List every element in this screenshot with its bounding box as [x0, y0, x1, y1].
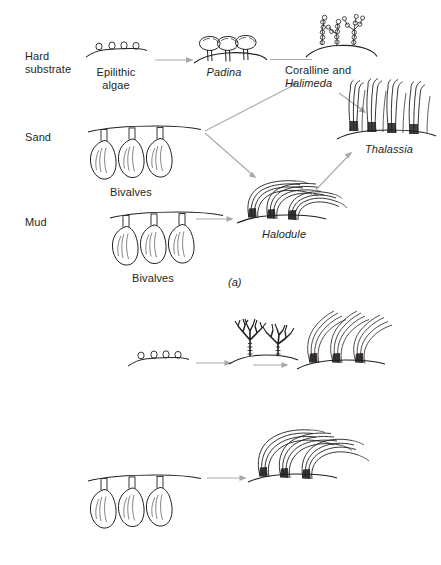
- stage-label-epilithic-algae: Epilithicalgae: [97, 66, 136, 92]
- stage-label-halodule: Halodule: [262, 228, 306, 241]
- arrow-ulva-to-coralline: [196, 360, 232, 366]
- arrow-halodule-to-thalassia: [310, 152, 352, 196]
- phyllospadix-seagrass-icon: [297, 311, 392, 369]
- panel-b-artwork: [0, 300, 441, 565]
- ulva-algae-icon: [128, 351, 189, 366]
- bivalves-mud-icon: [110, 212, 223, 265]
- substrate-label-mud: Mud: [25, 216, 47, 229]
- arrow-epilithic-to-padina: [155, 57, 193, 63]
- stage-label-bivalves-sand: Bivalves: [110, 186, 152, 199]
- thalassia-seagrass-icon: [337, 79, 436, 139]
- stage-label-coralline-halimeda: Coralline andHalimeda: [285, 64, 351, 90]
- arrow-bivalves-to-zostera: [207, 475, 247, 481]
- arrow-sand-to-halodule: [205, 133, 256, 178]
- padina-fan-algae-icon: [194, 36, 267, 64]
- arrow-coralline-to-thalassia: [339, 93, 366, 113]
- stage-label-thalassia: Thalassia: [365, 143, 413, 156]
- arrow-mud-to-halodule: [196, 216, 234, 222]
- panel-a: Hardsubstrate Sand Mud Epilithicalgae Pa…: [0, 0, 441, 300]
- stage-label-padina: Padina: [207, 66, 242, 79]
- coralline-halimeda-icon: [306, 14, 377, 57]
- substrate-label-sand: Sand: [25, 131, 51, 144]
- bivalves-sand-icon: [88, 126, 201, 179]
- succession-figure: Hardsubstrate Sand Mud Epilithicalgae Pa…: [0, 0, 441, 565]
- bivalves-sandmud-icon: [88, 475, 201, 528]
- coralline-algae-icon: [229, 319, 298, 364]
- halodule-seagrass-icon: [237, 181, 347, 223]
- stage-label-bivalves-mud: Bivalves: [132, 272, 174, 285]
- zostera-seagrass-icon: [248, 430, 369, 482]
- panel-b: Hardsubstrate Sand or mud Ulva Coralline…: [0, 300, 441, 565]
- panel-a-tag: (a): [228, 276, 241, 288]
- arrow-coralline-to-phyllospadix: [253, 362, 289, 368]
- arrow-sand-to-coralline: [205, 81, 298, 131]
- substrate-label-hard-a: Hardsubstrate: [25, 50, 99, 76]
